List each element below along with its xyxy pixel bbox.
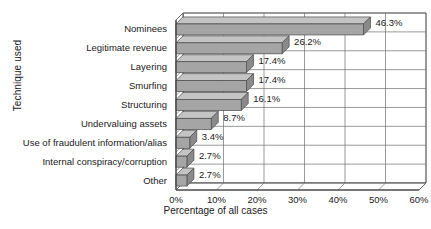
bar [176, 93, 248, 111]
bar-value-label: 17.4% [258, 74, 285, 85]
bar-value-label: 26.2% [294, 36, 321, 47]
bar-value-label: 3.4% [202, 131, 224, 142]
bar-chart: Technique used NomineesLegitimate revenu… [0, 0, 431, 229]
bar-value-label: 2.7% [199, 169, 221, 180]
x-axis-tick-label: 40% [318, 194, 358, 205]
x-axis-tick-label: 10% [197, 194, 237, 205]
x-axis-tick-label: 60% [399, 194, 431, 205]
bar [176, 17, 371, 35]
bar [176, 55, 253, 73]
x-axis-tick-label: 30% [278, 194, 318, 205]
bar-value-label: 16.1% [253, 93, 280, 104]
x-axis-tick-label: 50% [359, 194, 399, 205]
x-axis-tick-label: 0% [156, 194, 196, 205]
x-axis-tick-label: 20% [237, 194, 277, 205]
bar-value-label: 8.7% [223, 112, 245, 123]
bar [176, 36, 289, 54]
bar [176, 111, 218, 129]
bar-value-label: 17.4% [258, 55, 285, 66]
x-axis-title: Percentage of all cases [0, 205, 431, 216]
bar [176, 74, 253, 92]
bar-value-label: 2.7% [199, 150, 221, 161]
bar-value-label: 46.3% [376, 17, 403, 28]
